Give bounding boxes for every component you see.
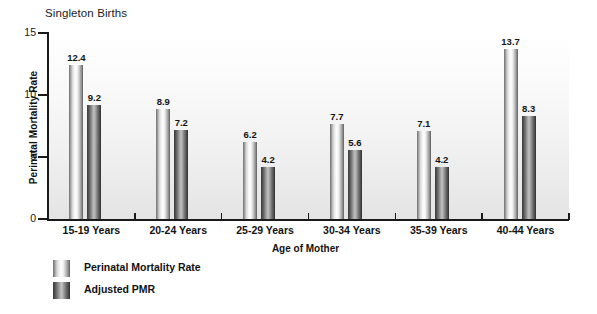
bar-value-1-1: 7.2 <box>165 117 197 128</box>
y-tick-label-0: 0 <box>14 212 36 224</box>
bar-4-1 <box>435 167 449 219</box>
category-label-4: 35-39 Years <box>395 224 482 236</box>
bar-value-0-1: 9.2 <box>78 92 110 103</box>
category-label-5: 40-44 Years <box>482 224 569 236</box>
bar-5-0 <box>504 49 518 219</box>
x-tick-3 <box>308 213 310 220</box>
y-tick-label-15: 15 <box>14 26 36 38</box>
bar-value-0-0: 12.4 <box>60 52 92 63</box>
bar-5-1 <box>522 116 536 219</box>
bar-1-1 <box>174 130 188 219</box>
y-axis-line <box>47 32 49 220</box>
bar-value-5-1: 8.3 <box>513 103 545 114</box>
y-axis-title: Perinatal Mortality Rate <box>28 33 39 223</box>
y-tick-5 <box>38 156 48 158</box>
chart-title: Singleton Births <box>45 7 127 19</box>
bar-0-0 <box>69 65 83 219</box>
bar-0-1 <box>87 105 101 219</box>
x-tick-1 <box>134 213 136 220</box>
category-label-3: 30-34 Years <box>309 224 396 236</box>
y-tick-label-10: 10 <box>14 88 36 100</box>
bar-value-1-0: 8.9 <box>147 96 179 107</box>
x-tick-6 <box>568 213 570 220</box>
y-tick-label-5: 5 <box>14 150 36 162</box>
bar-2-1 <box>261 167 275 219</box>
x-tick-4 <box>395 213 397 220</box>
bar-value-4-0: 7.1 <box>408 118 440 129</box>
y-tick-10 <box>38 94 48 96</box>
bar-value-3-0: 7.7 <box>321 111 353 122</box>
x-tick-5 <box>481 213 483 220</box>
legend-label-series-1: Adjusted PMR <box>84 283 155 295</box>
bar-value-2-0: 6.2 <box>234 129 266 140</box>
legend-swatch-perinatal-mortality-rate <box>53 260 70 277</box>
category-label-2: 25-29 Years <box>222 224 309 236</box>
chart-figure: Singleton Births Perinatal Mortality Rat… <box>0 0 597 314</box>
x-tick-2 <box>221 213 223 220</box>
category-label-0: 15-19 Years <box>48 224 135 236</box>
plot-area <box>48 33 569 219</box>
bar-3-1 <box>348 150 362 219</box>
category-label-1: 20-24 Years <box>135 224 222 236</box>
bar-value-3-1: 5.6 <box>339 137 371 148</box>
bar-value-4-1: 4.2 <box>426 154 458 165</box>
legend-swatch-adjusted-pmr <box>53 282 70 299</box>
x-tick-0 <box>47 213 49 220</box>
bar-4-0 <box>417 131 431 219</box>
bar-value-2-1: 4.2 <box>252 154 284 165</box>
y-tick-15 <box>38 32 48 34</box>
legend-label-series-0: Perinatal Mortality Rate <box>84 261 201 273</box>
bar-value-5-0: 13.7 <box>495 36 527 47</box>
x-axis-title: Age of Mother <box>248 243 363 254</box>
